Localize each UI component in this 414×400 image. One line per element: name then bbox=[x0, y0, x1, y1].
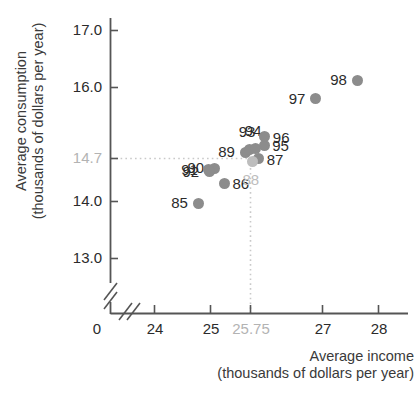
x-axis-ticks bbox=[155, 305, 379, 313]
y-tick-label-17: 17.0 bbox=[52, 21, 102, 38]
data-point-dot bbox=[219, 178, 230, 189]
x-tick-label-25-75: 25.75 bbox=[216, 320, 286, 337]
x-tick-label-28: 28 bbox=[358, 320, 400, 337]
y-tick-label-16: 16.0 bbox=[52, 78, 102, 95]
x-axis-title-line2: (thousands of dollars per year) bbox=[150, 365, 414, 382]
x-axis-break-mark bbox=[119, 303, 140, 320]
y-tick-label-13: 13.0 bbox=[52, 249, 102, 266]
data-point-label: 89 bbox=[218, 143, 235, 160]
y-axis-title-line2: (thousands of dollars per year) bbox=[30, 0, 47, 247]
data-point-label: 88 bbox=[243, 171, 260, 188]
x-axis-title: Average income (thousands of dollars per… bbox=[150, 348, 414, 382]
data-point-label: 92 bbox=[182, 163, 199, 180]
data-point-label: 98 bbox=[330, 71, 347, 88]
data-point-label: 97 bbox=[289, 90, 306, 107]
data-point-dot bbox=[193, 198, 204, 209]
x-axis-origin-label: 0 bbox=[86, 320, 108, 337]
y-axis-title: Average consumption (thousands of dollar… bbox=[13, 0, 47, 247]
data-point-label: 85 bbox=[171, 194, 188, 211]
y-tick-label-14: 14.0 bbox=[52, 192, 102, 209]
x-axis-title-line1: Average income bbox=[150, 348, 414, 365]
x-tick-label-27: 27 bbox=[302, 320, 344, 337]
data-point-dot bbox=[352, 75, 363, 86]
x-tick-label-24: 24 bbox=[134, 320, 176, 337]
y-axis-title-line1: Average consumption bbox=[13, 0, 30, 247]
y-tick-label-14-7: 14.7 bbox=[52, 149, 102, 166]
data-point-label: 96 bbox=[273, 129, 290, 146]
